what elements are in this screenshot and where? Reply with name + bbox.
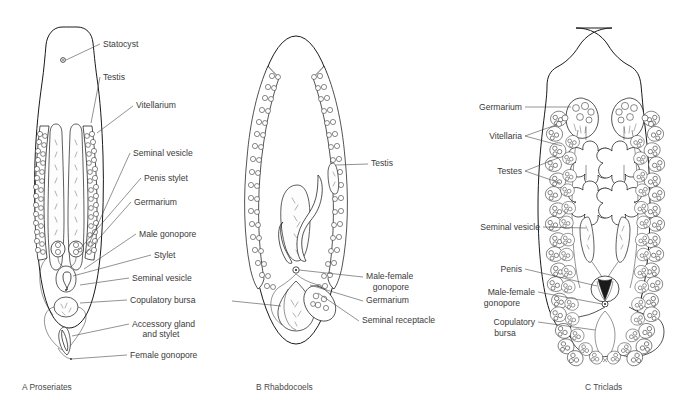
label-testis-b: Testis (371, 158, 393, 168)
label-seminal-vesicle-1: Seminal vesicle (133, 148, 193, 158)
caption-a: A Proseriates (22, 382, 72, 392)
caption-b: B Rhabdocoels (256, 382, 313, 392)
label-accessory-gland: Accessory gland (132, 319, 195, 329)
label-seminal-vesicle-2: Seminal vesicle (132, 273, 192, 283)
panel-b-labels: Testis Male-female gonopore Germarium Se… (362, 158, 435, 325)
label-stylet: Stylet (154, 250, 176, 260)
label-seminal-receptacle: Seminal receptacle (362, 315, 435, 325)
panel-c-triclads: Germarium Vitellaria Testes Seminal vesi… (479, 28, 665, 368)
label-seminal-vesicle-c: Seminal vesicle (480, 222, 540, 232)
anatomy-figure: Statocyst Testis Vitellarium Seminal ves… (0, 0, 695, 400)
label-male-gonopore: Male gonopore (139, 229, 197, 239)
label-female-gonopore: Female gonopore (130, 350, 198, 360)
label-vitellaria: Vitellaria (489, 131, 522, 141)
label-statocyst: Statocyst (103, 39, 139, 49)
label-penis: Penis (501, 264, 523, 274)
panel-a-copulatory-bursa-organ (54, 297, 78, 317)
label-vitellarium: Vitellarium (136, 100, 176, 110)
label-penis-stylet: Penis stylet (144, 173, 189, 183)
label-male-female-gonopore: Male-female (366, 271, 414, 281)
label-accessory-gland-2: and stylet (143, 329, 180, 339)
label-copulatory-bursa: Copulatory bursa (130, 295, 196, 305)
label-testis: Testis (103, 72, 125, 82)
figure-svg: Statocyst Testis Vitellarium Seminal ves… (0, 0, 695, 400)
panel-a-proseriates: Statocyst Testis Vitellarium Seminal ves… (33, 27, 197, 360)
label-testes: Testes (497, 166, 522, 176)
label-copulatory-bursa-c-2: bursa (494, 328, 516, 338)
figure-captions: A Proseriates B Rhabdocoels C Triclads (22, 382, 622, 392)
label-germarium: Germarium (134, 197, 177, 207)
label-copulatory-bursa-c: Copulatory (493, 317, 535, 327)
label-male-female-gonopore-2: gonopore (373, 282, 410, 292)
label-male-female-gonopore-c: Male-female (488, 287, 536, 297)
label-male-female-gonopore-c-2: gonopore (484, 298, 521, 308)
panel-c-germarium-left (566, 98, 598, 138)
label-germarium-c: Germarium (479, 102, 522, 112)
label-germarium-b: Germarium (366, 295, 409, 305)
panel-c-germarium-right (612, 98, 644, 138)
panel-b-rhabdocoels: Testis Male-female gonopore Germarium Se… (232, 36, 435, 344)
panel-a-labels: Statocyst Testis Vitellarium Seminal ves… (103, 39, 198, 360)
caption-c: C Triclads (585, 382, 622, 392)
